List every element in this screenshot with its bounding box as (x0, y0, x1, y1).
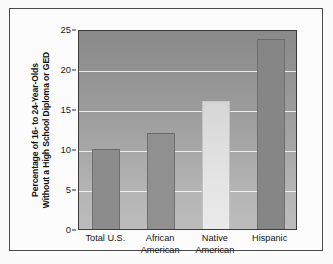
y-tick-label: 5 (66, 185, 71, 195)
y-tick-mark (72, 150, 76, 151)
y-tick-mark (72, 70, 76, 71)
y-axis-ticks: 0510152025 (54, 30, 76, 230)
bar (257, 39, 285, 229)
x-axis-label-line: American (188, 245, 243, 257)
x-axis-labels: Total U.S.AfricanAmericanNativeAmericanH… (78, 233, 297, 259)
y-tick-label: 25 (60, 25, 71, 35)
y-tick-mark (72, 30, 76, 31)
x-axis-label-line: American (133, 245, 188, 257)
x-axis-label: Total U.S. (78, 233, 133, 245)
x-axis-label: NativeAmerican (188, 233, 243, 256)
y-tick-label: 20 (60, 65, 71, 75)
y-tick-label: 15 (60, 105, 71, 115)
figure-frame: Percentage of 16- to 24-Year-Olds Withou… (9, 8, 323, 251)
bar (92, 149, 120, 229)
x-axis-label: AfricanAmerican (133, 233, 188, 256)
y-axis-title: Percentage of 16- to 24-Year-Olds Withou… (28, 0, 54, 30)
y-tick-mark (72, 230, 76, 231)
x-axis-label-line: Total U.S. (78, 233, 133, 245)
bar (202, 101, 230, 229)
x-axis-label-line: Hispanic (242, 233, 297, 245)
y-tick-label: 10 (60, 145, 71, 155)
bar (147, 133, 175, 229)
y-axis-title-line-1: Percentage of 16- to 24-Year-Olds (30, 63, 42, 197)
y-tick-mark (72, 110, 76, 111)
y-axis-title-line-2: Without a High School Diploma or GED (41, 52, 53, 208)
x-axis-label: Hispanic (242, 233, 297, 245)
chart-screenshot: Percentage of 16- to 24-Year-Olds Withou… (0, 0, 333, 264)
x-axis-label-line: African (133, 233, 188, 245)
y-tick-mark (72, 190, 76, 191)
plot-area (78, 30, 297, 230)
y-tick-label: 0 (66, 225, 71, 235)
x-axis-label-line: Native (188, 233, 243, 245)
